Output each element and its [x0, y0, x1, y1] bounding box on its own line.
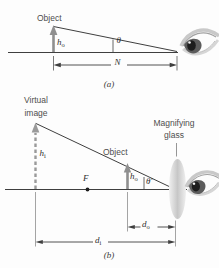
virtual-image-label-line1: Virtual: [14, 95, 58, 105]
n-dim-arrow-left: [54, 63, 61, 67]
part-a-caption: (a): [98, 80, 120, 89]
virtual-image-label-line2: image: [14, 108, 58, 118]
object-arrow-a-head: [50, 25, 58, 35]
object-height-label-b: ho: [130, 172, 138, 183]
magnifying-glass-label-line1: Magnifying: [146, 118, 202, 128]
ray-a-line: [54, 27, 178, 52]
do-dim-arrow-left: [128, 225, 135, 229]
di-dim-arrow-right: [168, 240, 175, 244]
eye-icon-b: [186, 172, 219, 195]
theta-prime-label: θ′: [146, 177, 152, 186]
part-a-geometry: [8, 25, 219, 71]
object-distance-label: do: [142, 220, 150, 231]
focal-point-dot: [86, 188, 90, 192]
part-b-geometry: [5, 123, 219, 247]
lens-shape: [169, 159, 186, 219]
image-distance-label: di: [95, 236, 101, 247]
image-height-label: hi: [40, 149, 46, 160]
do-dim-arrow-right: [168, 225, 175, 229]
theta-label-a: θ: [117, 36, 121, 45]
part-b-caption: (b): [98, 251, 120, 260]
object-label-a: Object: [37, 13, 62, 23]
n-dim-arrow-right: [170, 63, 177, 67]
object-label-b: Object: [103, 147, 128, 157]
optics-figure: Object ho θ N (a) Virtual image hi Objec…: [0, 0, 219, 268]
eye-icon-a: [181, 30, 219, 54]
near-point-distance-label: N: [115, 58, 121, 67]
di-dim-arrow-left: [36, 240, 43, 244]
focal-point-label: F: [83, 174, 89, 183]
magnifying-glass-label-line2: glass: [146, 130, 202, 140]
object-height-label-a: ho: [57, 38, 65, 49]
